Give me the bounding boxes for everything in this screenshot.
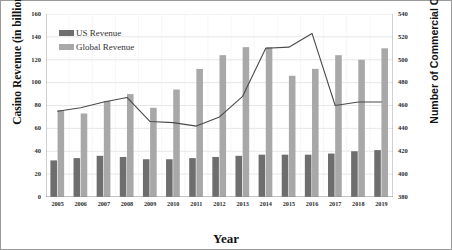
bar-us-revenue-2009 bbox=[143, 159, 150, 197]
y-axis-right-tick: 540 bbox=[398, 11, 422, 18]
y-axis-right-tick: 400 bbox=[398, 171, 422, 178]
bar-global-revenue-2015 bbox=[289, 76, 296, 197]
y-axis-left-tick: 80 bbox=[19, 102, 41, 109]
legend-swatch-icon bbox=[59, 44, 74, 50]
legend-item-us-revenue: US Revenue bbox=[59, 26, 134, 40]
x-axis-tick-2011: 2011 bbox=[183, 201, 209, 207]
x-axis-tick-2013: 2013 bbox=[230, 201, 256, 207]
x-axis-tick-2005: 2005 bbox=[45, 201, 71, 207]
bar-global-revenue-2018 bbox=[358, 60, 365, 197]
y-axis-right-tick: 420 bbox=[398, 148, 422, 155]
x-axis-title: Year bbox=[0, 231, 452, 247]
bar-us-revenue-2010 bbox=[166, 159, 173, 197]
y-axis-right-tick: 440 bbox=[398, 125, 422, 132]
legend-item-global-revenue: Global Revenue bbox=[59, 40, 134, 54]
x-axis-tick-2007: 2007 bbox=[91, 201, 117, 207]
y-axis-left-tick: 60 bbox=[19, 125, 41, 132]
y-axis-left-tick: 100 bbox=[19, 79, 41, 86]
y-axis-left-tick: 0 bbox=[19, 194, 41, 201]
y-axis-right-tick: 460 bbox=[398, 102, 422, 109]
bar-global-revenue-2016 bbox=[312, 69, 319, 197]
bar-us-revenue-2019 bbox=[374, 150, 381, 197]
y-axis-right-tick: 520 bbox=[398, 34, 422, 41]
bar-us-revenue-2007 bbox=[97, 156, 104, 197]
bar-us-revenue-2008 bbox=[120, 157, 127, 197]
x-axis-tick-2019: 2019 bbox=[368, 201, 394, 207]
x-axis-tick-2015: 2015 bbox=[276, 201, 302, 207]
x-axis-tick-2006: 2006 bbox=[68, 201, 94, 207]
x-axis-tick-2008: 2008 bbox=[114, 201, 140, 207]
bar-us-revenue-2015 bbox=[282, 155, 289, 197]
x-axis-tick-2018: 2018 bbox=[345, 201, 371, 207]
x-axis-tick-2016: 2016 bbox=[299, 201, 325, 207]
bar-us-revenue-2012 bbox=[212, 157, 219, 197]
x-axis-tick-2014: 2014 bbox=[253, 201, 279, 207]
y-axis-right-tick: 480 bbox=[398, 79, 422, 86]
bar-global-revenue-2006 bbox=[81, 114, 88, 197]
bar-global-revenue-2014 bbox=[266, 47, 273, 197]
bar-us-revenue-2016 bbox=[305, 155, 312, 197]
legend-label: US Revenue bbox=[76, 28, 121, 38]
bar-global-revenue-2010 bbox=[173, 89, 180, 197]
bar-us-revenue-2006 bbox=[74, 158, 81, 197]
bar-us-revenue-2005 bbox=[50, 160, 57, 197]
legend-label: Global Revenue bbox=[76, 42, 134, 52]
x-axis-tick-2012: 2012 bbox=[207, 201, 233, 207]
bar-global-revenue-2019 bbox=[381, 48, 388, 197]
chart-container: Casino Revenue (in billions) Number of C… bbox=[0, 0, 452, 250]
bar-global-revenue-2008 bbox=[127, 94, 134, 197]
bar-global-revenue-2005 bbox=[58, 110, 65, 197]
y-axis-right-title: Number of Commercial Casinos bbox=[428, 0, 440, 124]
bar-us-revenue-2011 bbox=[189, 158, 196, 197]
bar-global-revenue-2011 bbox=[196, 69, 203, 197]
y-axis-left-tick: 40 bbox=[19, 148, 41, 155]
x-axis-tick-2017: 2017 bbox=[322, 201, 348, 207]
x-axis-tick-2009: 2009 bbox=[137, 201, 163, 207]
bar-global-revenue-2013 bbox=[243, 47, 250, 197]
y-axis-left-title: Casino Revenue (in billions) bbox=[11, 0, 23, 136]
y-axis-right-tick: 500 bbox=[398, 57, 422, 64]
y-axis-left-tick: 20 bbox=[19, 171, 41, 178]
legend-swatch-icon bbox=[59, 30, 74, 36]
bar-us-revenue-2018 bbox=[351, 151, 358, 197]
y-axis-left-tick: 160 bbox=[19, 11, 41, 18]
bar-global-revenue-2007 bbox=[104, 101, 111, 197]
bar-global-revenue-2012 bbox=[220, 55, 227, 197]
y-axis-left-tick: 140 bbox=[19, 34, 41, 41]
bar-us-revenue-2017 bbox=[328, 154, 335, 197]
y-axis-left-tick: 120 bbox=[19, 57, 41, 64]
x-axis-tick-2010: 2010 bbox=[160, 201, 186, 207]
y-axis-right-tick: 380 bbox=[398, 194, 422, 201]
bar-us-revenue-2013 bbox=[235, 156, 242, 197]
bar-us-revenue-2014 bbox=[259, 155, 266, 197]
bar-global-revenue-2017 bbox=[335, 55, 342, 197]
chart-legend: US RevenueGlobal Revenue bbox=[59, 26, 134, 54]
